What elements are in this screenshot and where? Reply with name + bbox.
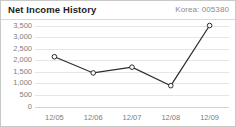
chart-plot-area: 3,5003,0002,5002,0001,5001,0005000 12/05…: [1, 20, 235, 126]
data-point-marker[interactable]: [207, 23, 212, 28]
ticker-label: Korea: 005380: [175, 5, 229, 14]
widget-header: Net Income History Korea: 005380: [1, 1, 235, 20]
page-title: Net Income History: [8, 4, 96, 15]
data-point-marker[interactable]: [52, 54, 57, 59]
net-income-history-widget: Net Income History Korea: 005380 3,5003,…: [0, 0, 236, 127]
line-chart-svg: [1, 20, 235, 126]
net-income-line: [54, 26, 209, 86]
data-point-marker[interactable]: [130, 65, 135, 70]
data-point-markers: [52, 23, 212, 88]
data-point-marker[interactable]: [169, 83, 174, 88]
data-point-marker[interactable]: [91, 71, 96, 76]
